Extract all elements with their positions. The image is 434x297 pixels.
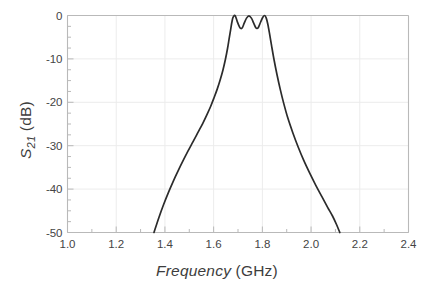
x-tick-label: 2.2 <box>352 238 368 250</box>
plot-frame <box>68 16 409 233</box>
x-tick-label: 1.8 <box>254 238 270 250</box>
y-axis-title-symbol: S <box>17 148 34 159</box>
y-axis-title-unit: (dB) <box>17 101 34 136</box>
x-axis-title-unit: (GHz) <box>231 262 278 279</box>
y-tick-label: 0 <box>20 10 63 22</box>
x-tick-label: 2.0 <box>303 238 319 250</box>
major-tick-marks <box>68 16 409 233</box>
y-axis-title: S21 (dB) <box>17 55 37 205</box>
x-tick-label: 1.6 <box>206 238 222 250</box>
plot-canvas <box>0 0 434 297</box>
x-tick-label: 2.4 <box>401 238 417 250</box>
s21-response-curve <box>154 15 340 232</box>
x-axis-title: Frequency (GHz) <box>0 262 434 280</box>
gridlines <box>68 16 409 233</box>
x-tick-label: 1.0 <box>60 238 76 250</box>
y-tick-label: -50 <box>20 227 63 239</box>
x-axis-title-variable: Frequency <box>156 262 231 279</box>
y-axis-title-subscript: 21 <box>25 136 37 149</box>
x-tick-label: 1.2 <box>108 238 124 250</box>
chart-figure: 1.01.21.41.61.82.02.22.4 0-10-20-30-40-5… <box>0 0 434 297</box>
x-tick-label: 1.4 <box>157 238 173 250</box>
